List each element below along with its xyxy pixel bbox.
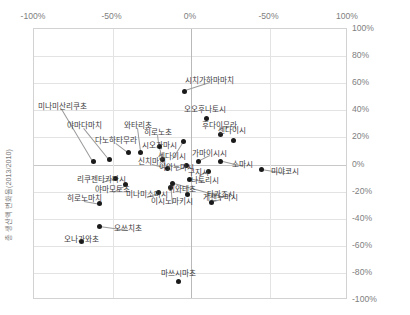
y-axis-tick: -20%	[352, 186, 372, 196]
point-label: 야마모토초	[95, 186, 130, 194]
point-label: 히로노마치	[67, 195, 102, 203]
point-label: 오나가와초	[64, 236, 99, 244]
point-label: 센다이시	[158, 153, 186, 161]
point-label: 야마다마치	[67, 122, 102, 130]
leader-line	[137, 128, 141, 153]
gridline-horizontal	[34, 56, 346, 57]
point-label: 미나미소마시	[126, 191, 168, 199]
plot-area: 미나미산리쿠초야마다마치다노하타무라와타리초히로노초시오가마시신치마치센다이시시…	[33, 28, 347, 299]
gridline-horizontal	[34, 246, 346, 247]
gridline-vertical	[113, 29, 114, 298]
y-axis-title-label: 총 생산액 변화율(2013/2010)	[5, 149, 12, 241]
y-axis-tick: 40%	[352, 104, 369, 114]
point-label: 오쓰치초	[114, 225, 142, 233]
point-label: 리쿠젠타카타시	[77, 176, 126, 184]
gridline-horizontal	[34, 219, 346, 220]
y-axis-tick: -40%	[352, 213, 372, 223]
point-label: 미나미산리쿠초	[38, 103, 87, 111]
point-label: 이와테초	[168, 186, 196, 194]
point-label: 다노하타무라	[95, 137, 137, 145]
point-label: 히로노초	[144, 129, 172, 137]
x-axis-tick: -50%	[101, 11, 121, 21]
point-label: 게센누마시	[203, 194, 238, 202]
x-axis-tick: 100%	[336, 11, 358, 21]
point-label: 센다이시	[218, 127, 246, 135]
point-label: 시오가마시	[142, 142, 177, 150]
data-point	[126, 150, 131, 155]
x-axis-tick: 0%	[184, 11, 196, 21]
data-point	[231, 138, 236, 143]
x-axis-tick: -50%	[258, 11, 278, 21]
gridline-vertical	[270, 29, 271, 298]
y-axis-tick: -80%	[352, 267, 372, 277]
point-label: 시치가하마마치	[185, 77, 234, 85]
data-point	[259, 167, 264, 172]
point-label: 마쓰시마초	[161, 270, 196, 278]
y-axis-tick: 60%	[352, 77, 369, 87]
gridline-horizontal	[34, 137, 346, 138]
data-point	[176, 279, 181, 284]
y-axis-tick: 100%	[352, 23, 374, 33]
y-axis-title: 총 생산액 변화율(2013/2010)	[0, 0, 18, 315]
y-axis-tick: 0%	[352, 159, 364, 169]
x-axis-tick: -100%	[21, 11, 46, 21]
data-point	[181, 139, 186, 144]
data-point	[107, 157, 112, 162]
y-axis-tick: -60%	[352, 240, 372, 250]
point-label: 가마이시시	[192, 150, 227, 158]
point-label: 오오후나토시	[184, 106, 226, 114]
data-point	[138, 150, 143, 155]
y-axis-tick: -100%	[352, 294, 377, 304]
scatter-chart: 총 생산액 변화율(2013/2010) -100%-50%0%-50%100%…	[0, 0, 410, 315]
y-axis-tick: 20%	[352, 131, 369, 141]
point-label: 미야코시	[271, 168, 299, 176]
y-axis-tick: 80%	[352, 50, 369, 60]
point-label: 소마시	[232, 161, 253, 169]
data-point	[97, 224, 102, 229]
data-point	[182, 89, 187, 94]
